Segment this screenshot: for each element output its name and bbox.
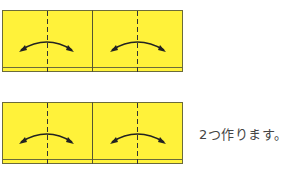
paper-strip-diagram (2, 10, 183, 73)
instruction-caption: 2つ作ります。 (199, 124, 288, 143)
folding-panel-top (2, 10, 183, 72)
folding-panel-bottom (2, 102, 183, 164)
paper-strip-diagram (2, 102, 183, 165)
